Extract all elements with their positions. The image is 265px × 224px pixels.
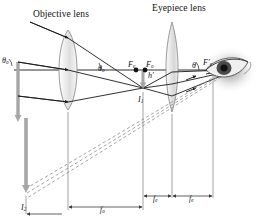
dimension-arrows	[27, 196, 212, 214]
theta-o-left-label: θo	[2, 50, 9, 66]
dim-fo-label: fo	[100, 199, 105, 215]
objective-lens-title: Objective lens	[33, 10, 89, 20]
diagram-canvas	[0, 0, 265, 224]
distant-object-arrow	[15, 62, 22, 122]
Fo-label: Fo	[146, 54, 153, 70]
Fe-label: Fe	[128, 54, 135, 70]
dimension-extension-lines	[26, 74, 213, 214]
virtual-rays-dashed	[27, 70, 226, 198]
eyepiece-lens	[166, 22, 178, 112]
theta-o-axis-label: θo	[98, 58, 105, 74]
Fe-prime-label: F′e	[203, 52, 212, 68]
arc-theta-o-left	[9, 59, 12, 66]
h-prime-label: h′	[148, 72, 154, 80]
dim-fe-right-label: fe	[189, 188, 193, 204]
arc-theta-eye	[196, 62, 199, 70]
telescope-ray-diagram: Objective lens Eyepiece lens θo θo Fe Fo…	[0, 0, 265, 224]
theta-eye-label: θ	[192, 62, 196, 70]
dim-fe-left-label: fe	[153, 188, 157, 204]
final-image-arrow	[22, 118, 30, 193]
I1-label: I1	[138, 89, 143, 105]
I2-label: I2	[21, 197, 26, 213]
eyepiece-lens-title: Eyepiece lens	[152, 4, 206, 14]
